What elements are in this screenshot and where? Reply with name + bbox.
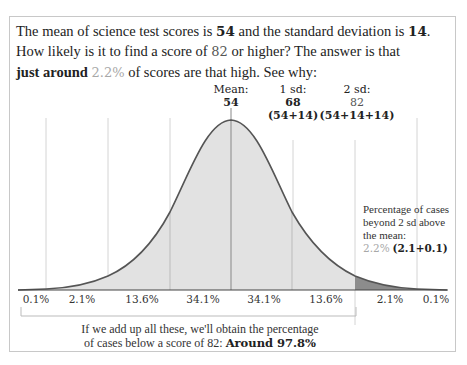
tail-note: Percentage of cases beyond 2 sd above th… [363, 203, 458, 255]
summary-line2-pre: of cases below a score of 82: [84, 336, 226, 350]
sd2-label-title: 2 sd: [318, 83, 396, 96]
segment-label: 13.6% [125, 293, 158, 305]
segment-label: 34.1% [247, 293, 280, 305]
segment-label: 34.1% [186, 293, 219, 305]
sum-bracket [21, 307, 356, 316]
sd1-label-title: 1 sd: [262, 83, 324, 96]
mean-label: Mean: 54 [206, 83, 256, 109]
segment-label: 0.1% [23, 293, 50, 305]
sd2-label-calc: (54+14+14) [318, 109, 396, 122]
segment-label: 13.6% [309, 293, 342, 305]
mean-label-title: Mean: [206, 83, 256, 96]
mean-label-value: 54 [206, 96, 256, 109]
tail-note-pct: 2.2% [363, 242, 390, 254]
segment-label: 2.1% [69, 293, 96, 305]
tail-note-calc: (2.1+0.1) [392, 242, 447, 254]
segment-label: 2.1% [377, 293, 404, 305]
sd2-label: 2 sd: 82 (54+14+14) [318, 83, 396, 122]
segment-label: 0.1% [423, 293, 450, 305]
sd1-label-calc: (54+14) [262, 109, 324, 122]
tail-note-text: Percentage of cases beyond 2 sd above th… [363, 203, 449, 241]
normal-curve-chart [0, 0, 467, 365]
summary-total: Around 97.8% [226, 336, 316, 350]
sd1-label-value: 68 [262, 96, 324, 109]
summary-line1: If we add up all these, we'll obtain the… [40, 322, 360, 336]
summary-text: If we add up all these, we'll obtain the… [40, 322, 360, 350]
sd1-label: 1 sd: 68 (54+14) [262, 83, 324, 122]
sd2-label-value: 82 [318, 96, 396, 109]
curve-fill-light [18, 120, 355, 290]
